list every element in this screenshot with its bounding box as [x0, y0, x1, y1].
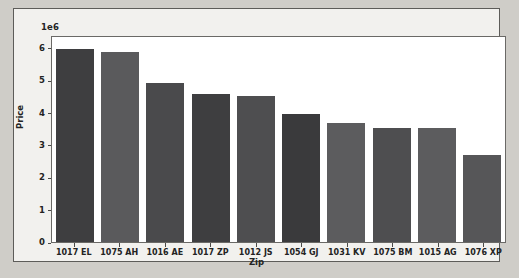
x-axis-tick: 1017 ZP — [191, 243, 229, 257]
x-tick-mark — [301, 243, 302, 247]
y-tick-label: 3 — [39, 140, 45, 150]
bar — [56, 49, 94, 242]
x-tick-mark — [392, 243, 393, 247]
x-tick-label: 1076 XP — [464, 248, 502, 257]
bar — [373, 128, 411, 242]
x-tick-label: 1075 AH — [100, 248, 138, 257]
bar — [418, 128, 456, 242]
x-tick-mark — [347, 243, 348, 247]
x-tick-label: 1017 EL — [55, 248, 93, 257]
x-tick-mark — [483, 243, 484, 247]
x-axis-tick: 1076 XP — [464, 243, 502, 257]
bar-series — [52, 37, 505, 242]
x-tick-mark — [74, 243, 75, 247]
x-tick-label: 1016 AE — [146, 248, 184, 257]
x-tick-label: 1075 BM — [373, 248, 411, 257]
x-tick-label: 1054 GJ — [282, 248, 320, 257]
y-axis-tick: 5 — [14, 81, 51, 82]
x-tick-mark — [438, 243, 439, 247]
x-tick-mark — [165, 243, 166, 247]
y-axis-offset-text: 1e6 — [41, 22, 59, 32]
x-axis-tick: 1075 BM — [373, 243, 411, 257]
y-axis-tick: 0 — [14, 243, 51, 244]
y-tick-label: 2 — [39, 172, 45, 182]
x-tick-label: 1012 JS — [237, 248, 275, 257]
bar — [146, 83, 184, 242]
x-axis-tick: 1016 AE — [146, 243, 184, 257]
y-axis-tick: 1 — [14, 211, 51, 212]
x-axis-tick: 1012 JS — [237, 243, 275, 257]
y-tick-label: 1 — [39, 205, 45, 215]
y-axis-tick: 3 — [14, 146, 51, 147]
x-axis-tick: 1031 KV — [328, 243, 366, 257]
x-axis-tick: 1015 AG — [419, 243, 457, 257]
bar — [101, 52, 139, 242]
y-tick-label: 0 — [39, 237, 45, 247]
y-tick-label: 5 — [39, 75, 45, 85]
chart-figure: 1e6 Price 0123456 1017 EL1075 AH1016 AE1… — [13, 8, 500, 262]
x-axis-tick: 1017 EL — [55, 243, 93, 257]
x-axis-label: Zip — [14, 257, 499, 267]
y-tick-label: 6 — [39, 43, 45, 53]
x-tick-label: 1015 AG — [419, 248, 457, 257]
y-tick-label: 4 — [39, 108, 45, 118]
bar — [192, 94, 230, 242]
bar — [282, 114, 320, 242]
x-axis-tick: 1075 AH — [100, 243, 138, 257]
x-tick-mark — [256, 243, 257, 247]
bar — [237, 96, 275, 242]
x-tick-label: 1031 KV — [328, 248, 366, 257]
plot-area — [51, 36, 506, 243]
y-axis-tick: 4 — [14, 114, 51, 115]
y-axis-tick: 6 — [14, 49, 51, 50]
x-tick-label: 1017 ZP — [191, 248, 229, 257]
x-tick-mark — [210, 243, 211, 247]
y-axis-tick: 2 — [14, 178, 51, 179]
x-axis-tick: 1054 GJ — [282, 243, 320, 257]
bar — [327, 123, 365, 242]
bar — [463, 155, 501, 242]
x-tick-mark — [119, 243, 120, 247]
y-axis: 0123456 — [14, 36, 51, 243]
